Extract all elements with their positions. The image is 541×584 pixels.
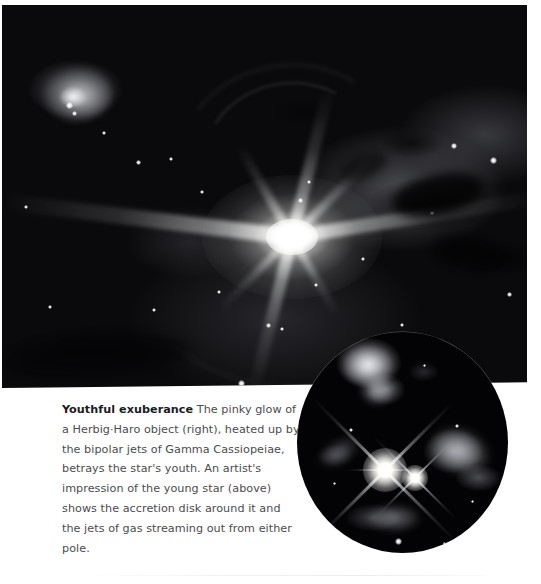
page-canvas: Youthful exuberance The pinky glow of a …	[0, 0, 541, 584]
artists-impression-circular-inset	[297, 332, 508, 553]
caption-paragraph: Youthful exuberance The pinky glow of a …	[62, 400, 300, 558]
inset-field-star	[471, 500, 474, 503]
field-star	[361, 257, 365, 261]
field-star	[238, 380, 245, 387]
star-glow	[363, 448, 407, 492]
figure-caption: Youthful exuberance The pinky glow of a …	[62, 400, 300, 558]
field-star	[451, 143, 457, 149]
star-core	[266, 219, 318, 255]
inset-field-star	[443, 542, 446, 545]
field-star	[280, 327, 284, 331]
inset-field-star	[423, 364, 426, 367]
footer-divider	[86, 575, 486, 576]
herbig-haro-object-photograph	[2, 5, 527, 388]
field-star	[136, 160, 141, 165]
field-star	[266, 323, 271, 328]
inset-nebula-cloud-top-2	[359, 374, 395, 406]
field-star	[314, 283, 318, 287]
field-star	[24, 205, 28, 209]
field-star	[507, 292, 512, 297]
inset-field-star	[395, 538, 402, 545]
field-star	[200, 190, 204, 194]
field-star	[48, 305, 52, 309]
nebula-patch-upper-left-core	[60, 87, 86, 107]
inset-field-star	[333, 482, 336, 485]
field-star	[152, 308, 156, 312]
inset-field-star	[349, 428, 353, 432]
field-star	[490, 157, 497, 164]
star-glow	[402, 465, 428, 491]
field-star	[72, 111, 77, 116]
field-star	[307, 180, 311, 184]
caption-lede: Youthful exuberance	[62, 403, 193, 416]
field-star	[217, 290, 221, 294]
caption-body: The pinky glow of a Herbig·Haro object (…	[62, 403, 300, 555]
field-star	[400, 323, 404, 327]
field-star	[102, 131, 106, 135]
field-star	[66, 102, 73, 109]
inset-nebula-cloud-bottom	[367, 504, 421, 532]
field-star	[298, 198, 303, 203]
field-star	[169, 157, 173, 161]
inset-field-star	[455, 424, 459, 428]
